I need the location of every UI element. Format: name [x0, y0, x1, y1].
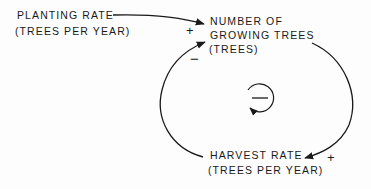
- harvest-rate-units: (TREES PER YEAR): [208, 164, 323, 177]
- trees-to-harvest-arrow: [305, 43, 353, 158]
- causal-loop-diagram: PLANTING RATE (TREES PER YEAR) NUMBER OF…: [0, 0, 371, 189]
- harvest-link-polarity: +: [327, 151, 335, 164]
- planting-link-polarity: +: [186, 24, 194, 37]
- counterclockwise-loop-icon: [248, 84, 274, 112]
- feedback-link-polarity: −: [190, 52, 199, 65]
- growing-trees-label-line2: GROWING TREES: [210, 29, 315, 42]
- harvest-rate-label: HARVEST RATE: [210, 149, 303, 162]
- growing-trees-label-line1: NUMBER OF: [210, 15, 283, 28]
- planting-rate-label: PLANTING RATE: [17, 9, 114, 22]
- planting-rate-units: (TREES PER YEAR): [15, 25, 130, 38]
- growing-trees-units: (TREES): [209, 43, 259, 56]
